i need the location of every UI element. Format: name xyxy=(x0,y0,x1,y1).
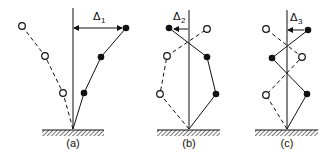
delta-symbol: Δ xyxy=(93,10,101,23)
mass-open xyxy=(263,26,270,33)
mass-open xyxy=(299,54,306,61)
delta-symbol: Δ xyxy=(173,10,181,23)
mass-filled xyxy=(213,91,220,98)
panel-caption: (b) xyxy=(182,137,195,149)
mass-filled xyxy=(81,90,88,97)
panel-a: Δ 1 (a) xyxy=(19,8,130,149)
ground-hatch xyxy=(42,130,104,136)
delta-subscript: 2 xyxy=(181,16,186,25)
deflected-shape-solid xyxy=(169,28,216,129)
panel-c: Δ 3 (c) xyxy=(255,10,318,149)
ground-hatch xyxy=(255,130,318,136)
mass-open xyxy=(19,23,26,30)
mass-open xyxy=(263,92,270,99)
deflected-shape-dashed xyxy=(22,26,73,129)
mode-shapes-figure: Δ 1 (a) Δ 2 (b) Δ 3 (c) xyxy=(0,0,335,160)
mass-open xyxy=(164,53,171,60)
delta-subscript: 3 xyxy=(298,17,303,26)
deflected-shape-solid xyxy=(73,28,126,129)
delta-symbol: Δ xyxy=(290,11,298,24)
panel-caption: (c) xyxy=(281,137,294,149)
mass-filled xyxy=(269,55,276,62)
mass-filled xyxy=(304,91,311,98)
deflected-shape-dashed xyxy=(266,29,302,129)
panel-caption: (a) xyxy=(66,137,79,149)
mass-filled xyxy=(305,27,312,34)
delta-subscript: 1 xyxy=(101,16,106,25)
panel-b: Δ 2 (b) xyxy=(157,10,220,149)
ground-hatch xyxy=(157,130,220,136)
mass-filled xyxy=(123,25,130,32)
mass-filled xyxy=(166,25,173,32)
mass-open xyxy=(204,26,211,33)
mass-filled xyxy=(204,54,211,61)
mass-filled xyxy=(98,54,105,61)
mass-open xyxy=(60,90,67,97)
mass-open xyxy=(42,53,49,60)
mass-open xyxy=(157,91,164,98)
